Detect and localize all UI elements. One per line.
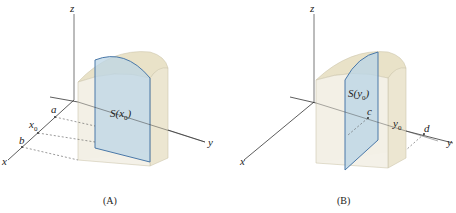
cross-section-base: S(x xyxy=(110,107,124,119)
caption-a: (A) xyxy=(103,196,117,206)
z-axis-label: z xyxy=(310,3,314,14)
z-axis-label: z xyxy=(70,3,74,14)
cross-section-label-b: S(y0) xyxy=(348,88,369,102)
panel-a: z y x a x0 b S(x0) (A) xyxy=(0,0,228,213)
cross-section-base: S(y xyxy=(348,87,362,99)
label-d: d xyxy=(424,123,430,134)
label-a: a xyxy=(51,104,57,115)
x-axis-label: x xyxy=(240,156,245,167)
cross-section-close: ) xyxy=(128,107,132,119)
label-y0: y0 xyxy=(393,118,401,132)
x0-subscript: 0 xyxy=(34,125,38,133)
label-x0: x0 xyxy=(29,119,37,133)
label-c: c xyxy=(367,106,372,117)
caption-b: (B) xyxy=(337,196,350,206)
y-axis-label: y xyxy=(447,137,452,148)
panel-b: z y x S(y0) c y0 d (B) xyxy=(228,0,456,213)
solid-diagram-b xyxy=(228,0,456,213)
label-b: b xyxy=(19,135,25,146)
cross-section-label-a: S(x0) xyxy=(110,108,131,122)
y-axis-label: y xyxy=(208,137,213,148)
y0-subscript: 0 xyxy=(398,124,402,132)
x-axis-label: x xyxy=(2,156,7,167)
cross-section-close: ) xyxy=(366,87,370,99)
